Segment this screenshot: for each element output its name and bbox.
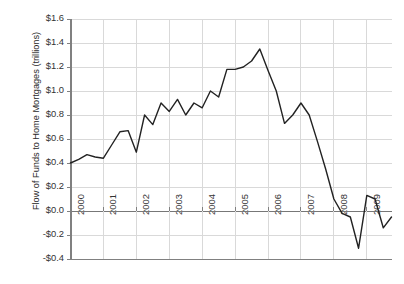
series-line [71,49,392,248]
data-series [71,49,392,248]
gridlines [71,19,392,259]
chart-container: Flow of Funds to Home Mortgages (trillio… [0,0,404,284]
line-chart-plot [0,0,404,284]
